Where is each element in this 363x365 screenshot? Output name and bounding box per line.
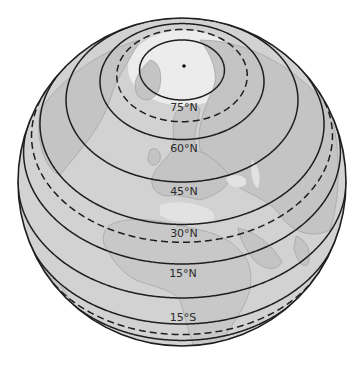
globe-diagram: 75°N 60°N 45°N 30°N 15°N 15°S (0, 0, 363, 365)
label-45n: 45°N (170, 185, 198, 198)
label-60n: 60°N (170, 142, 198, 155)
label-30n: 30°N (170, 227, 198, 240)
label-15n: 15°N (169, 267, 197, 280)
north-pole-marker (182, 64, 186, 68)
british-isles (148, 149, 160, 165)
label-15s: 15°S (170, 311, 196, 324)
label-75n: 75°N (170, 101, 198, 114)
